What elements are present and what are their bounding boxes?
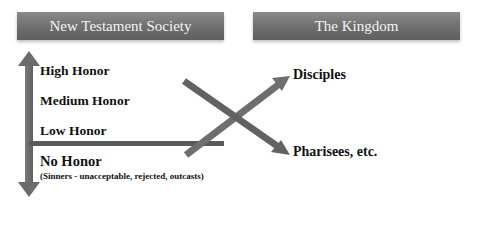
arrow-down-head [18,182,40,197]
honor-scale-shaft [25,62,33,186]
label-no-honor-note: (Sinners - unacceptable, rejected, outca… [40,171,204,181]
label-low-honor: Low Honor [40,123,106,139]
arrow-up-head [18,51,40,66]
label-pharisees: Pharisees, etc. [293,144,377,160]
label-no-honor: No Honor [40,153,102,170]
honor-scale-arrow [18,51,40,197]
label-high-honor: High Honor [40,63,109,79]
label-medium-honor: Medium Honor [40,93,130,109]
label-disciples: Disciples [293,67,346,83]
